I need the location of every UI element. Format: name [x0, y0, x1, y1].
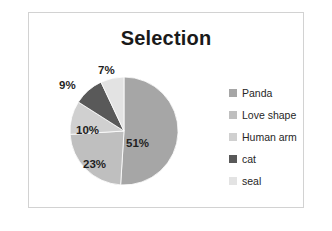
- legend-item-label: Human arm: [242, 132, 297, 143]
- legend-item-label: seal: [242, 176, 261, 187]
- legend-swatch-icon: [229, 133, 237, 141]
- legend-swatch-icon: [229, 177, 237, 185]
- legend-swatch-icon: [229, 89, 237, 97]
- legend-item-label: Love shape: [242, 110, 296, 121]
- legend-item[interactable]: Love shape: [229, 104, 301, 126]
- pie-value-label: 51%: [126, 137, 149, 149]
- legend-swatch-icon: [229, 111, 237, 119]
- pie-value-label: 10%: [76, 124, 99, 136]
- chart-legend: PandaLove shapeHuman armcatseal: [229, 82, 301, 192]
- chart-screenshot: Selection 51%23%10%9%7% PandaLove shapeH…: [0, 0, 332, 231]
- legend-item-label: cat: [242, 154, 256, 165]
- legend-swatch-icon: [229, 155, 237, 163]
- legend-item[interactable]: Panda: [229, 82, 301, 104]
- legend-item[interactable]: Human arm: [229, 126, 301, 148]
- pie-value-label: 23%: [83, 158, 106, 170]
- chart-title: Selection: [28, 27, 304, 50]
- legend-item[interactable]: cat: [229, 148, 301, 170]
- pie-value-label: 7%: [98, 64, 115, 76]
- legend-item[interactable]: seal: [229, 170, 301, 192]
- pie-slice: [121, 77, 178, 185]
- pie-value-label: 9%: [59, 79, 76, 91]
- legend-item-label: Panda: [242, 88, 272, 99]
